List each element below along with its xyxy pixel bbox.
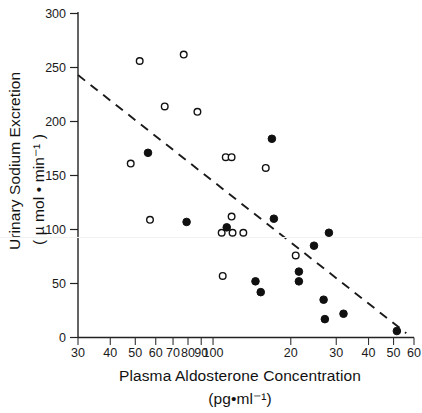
data-point bbox=[262, 165, 269, 172]
x-tick-label-30: 30 bbox=[71, 346, 85, 360]
data-point bbox=[228, 154, 235, 161]
y-tick-label-100: 100 bbox=[45, 223, 66, 237]
data-point bbox=[161, 103, 168, 110]
x-tick-label-400: 40 bbox=[362, 346, 376, 360]
y-tick-label-250: 250 bbox=[45, 61, 66, 75]
regression-line bbox=[78, 75, 406, 333]
x-tick-label-300: 30 bbox=[329, 346, 343, 360]
x-tick-label-100: 100 bbox=[203, 346, 224, 360]
y-tick-label-50: 50 bbox=[52, 277, 66, 291]
open-circle-series bbox=[127, 51, 299, 279]
scatter-plot-figure: 050100150200250300 304050607080901002030… bbox=[0, 0, 422, 413]
x-axis-ticks: 304050607080901002030405060 bbox=[71, 338, 421, 361]
data-point bbox=[219, 273, 226, 280]
y-axis-title: Urinary Sodium Excretion bbox=[6, 72, 23, 250]
data-point bbox=[268, 135, 276, 143]
data-point bbox=[325, 229, 333, 237]
data-point bbox=[240, 229, 247, 236]
x-axis-units: (pg•ml⁻¹) bbox=[208, 390, 271, 407]
x-tick-label-40: 40 bbox=[103, 346, 117, 360]
x-tick-label-600: 60 bbox=[407, 346, 421, 360]
x-tick-label-50: 50 bbox=[128, 346, 142, 360]
x-tick-label-80: 80 bbox=[181, 346, 195, 360]
x-tick-label-70: 70 bbox=[166, 346, 180, 360]
y-axis-ticks: 050100150200250300 bbox=[45, 7, 78, 345]
data-point bbox=[180, 51, 187, 58]
x-tick-label-500: 50 bbox=[387, 346, 401, 360]
data-point bbox=[183, 218, 191, 226]
x-tick-label-200: 20 bbox=[284, 346, 298, 360]
data-point bbox=[194, 108, 201, 115]
data-point bbox=[320, 296, 328, 304]
data-point bbox=[295, 278, 303, 286]
chart-canvas: 050100150200250300 304050607080901002030… bbox=[0, 0, 422, 413]
data-point bbox=[292, 252, 299, 259]
axes-group bbox=[78, 12, 414, 338]
y-tick-label-300: 300 bbox=[45, 7, 66, 21]
data-point bbox=[340, 310, 348, 318]
x-tick-label-60: 60 bbox=[149, 346, 163, 360]
data-point bbox=[229, 229, 236, 236]
data-point bbox=[295, 268, 303, 276]
y-axis-title-group: Urinary Sodium Excretion ( µ mol • min⁻¹… bbox=[6, 72, 47, 250]
data-point bbox=[127, 160, 134, 167]
y-axis-units: ( µ mol • min⁻¹ ) bbox=[30, 134, 47, 245]
data-point bbox=[223, 224, 231, 232]
y-tick-label-200: 200 bbox=[45, 115, 66, 129]
x-axis-title: Plasma Aldosterone Concentration bbox=[119, 367, 361, 384]
data-point bbox=[228, 213, 235, 220]
data-point bbox=[136, 58, 143, 65]
data-point bbox=[270, 215, 278, 223]
data-point bbox=[393, 327, 401, 335]
data-point bbox=[147, 216, 154, 223]
data-point bbox=[252, 278, 260, 286]
data-point bbox=[321, 315, 329, 323]
y-tick-label-150: 150 bbox=[45, 169, 66, 183]
y-tick-label-0: 0 bbox=[59, 331, 66, 345]
data-point bbox=[310, 242, 318, 250]
data-point bbox=[257, 288, 265, 296]
filled-circle-series bbox=[144, 135, 400, 335]
data-point bbox=[144, 149, 152, 157]
